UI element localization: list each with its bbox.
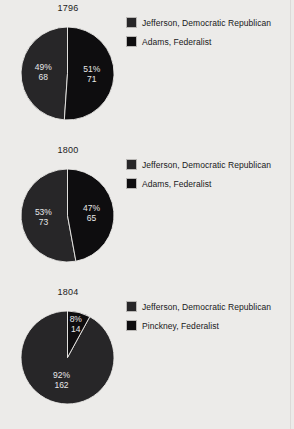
legend-label: Adams, Federalist <box>142 179 211 189</box>
legend-label: Jefferson, Democratic Republican <box>142 302 271 312</box>
legend-item[interactable]: Pinckney, Federalist <box>126 317 291 334</box>
legend-swatch-icon <box>126 17 137 28</box>
pie-panel-1804: 1804 92% 162 8% 14 Jefferson, Democratic… <box>0 284 294 427</box>
slice-percent-label: 8% <box>70 314 83 324</box>
legend-swatch-icon <box>126 178 137 189</box>
chart-page: 1796 49% 68 51% 71 Jefferson, Democratic… <box>0 0 294 429</box>
pie-panel-1796: 1796 49% 68 51% 71 Jefferson, Democratic… <box>0 0 294 143</box>
slice-value-label: 65 <box>87 213 97 223</box>
pie-chart-1804: 92% 162 8% 14 <box>21 305 114 410</box>
slice-percent-label: 53% <box>35 207 52 217</box>
legend-1796: Jefferson, Democratic Republican Adams, … <box>126 14 291 52</box>
legend-item[interactable]: Jefferson, Democratic Republican <box>126 298 291 315</box>
legend-item[interactable]: Jefferson, Democratic Republican <box>126 156 291 173</box>
chart-title: 1796 <box>0 3 136 14</box>
legend-item[interactable]: Adams, Federalist <box>126 33 291 50</box>
slice-percent-label: 92% <box>53 370 70 380</box>
slice-value-label: 73 <box>39 217 49 227</box>
slice-percent-label: 47% <box>83 203 100 213</box>
pie-chart-1796: 49% 68 51% 71 <box>21 21 114 126</box>
pie-svg: 49% 68 51% 71 <box>21 21 114 126</box>
pie-svg: 92% 162 8% 14 <box>21 305 114 410</box>
legend-1800: Jefferson, Democratic Republican Adams, … <box>126 156 291 194</box>
legend-label: Adams, Federalist <box>142 37 211 47</box>
legend-swatch-icon <box>126 36 137 47</box>
slice-value-label: 68 <box>39 72 49 82</box>
pie-chart-1800: 53% 73 47% 65 <box>21 163 114 268</box>
legend-label: Jefferson, Democratic Republican <box>142 160 271 170</box>
slice-value-label: 162 <box>54 380 68 390</box>
legend-label: Pinckney, Federalist <box>142 321 219 331</box>
legend-swatch-icon <box>126 320 137 331</box>
legend-label: Jefferson, Democratic Republican <box>142 18 271 28</box>
chart-title: 1804 <box>0 287 136 298</box>
legend-item[interactable]: Adams, Federalist <box>126 175 291 192</box>
legend-swatch-icon <box>126 301 137 312</box>
pie-svg: 53% 73 47% 65 <box>21 163 114 268</box>
chart-title: 1800 <box>0 145 136 156</box>
legend-swatch-icon <box>126 159 137 170</box>
slice-value-label: 71 <box>87 74 97 84</box>
slice-percent-label: 51% <box>83 64 100 74</box>
slice-value-label: 14 <box>71 324 81 334</box>
legend-1804: Jefferson, Democratic Republican Pinckne… <box>126 298 291 336</box>
pie-panel-1800: 1800 53% 73 47% 65 Jefferson, Democratic… <box>0 142 294 285</box>
legend-item[interactable]: Jefferson, Democratic Republican <box>126 14 291 31</box>
slice-percent-label: 49% <box>35 62 52 72</box>
